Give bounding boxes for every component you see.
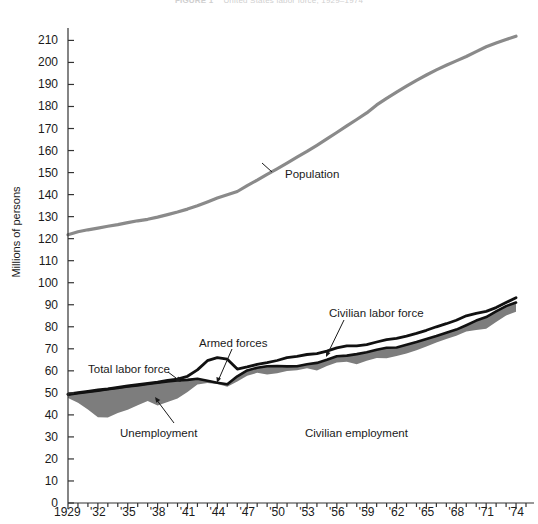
population-line bbox=[68, 36, 516, 235]
annotation-total-labor-force: Total labor force bbox=[88, 363, 170, 375]
chart-figure: FIGURE 1United States labor force, 1929–… bbox=[0, 0, 538, 524]
annotation-civilian-employment: Civilian employment bbox=[305, 427, 408, 439]
annotation-armed-forces: Armed forces bbox=[199, 337, 267, 349]
civilian-labor-force-line bbox=[68, 303, 516, 395]
civilian-employment-area bbox=[68, 312, 516, 503]
annotation-population: Population bbox=[285, 168, 339, 180]
population-leader bbox=[262, 163, 272, 172]
plot-area bbox=[0, 0, 538, 524]
annotation-unemployment: Unemployment bbox=[120, 427, 197, 439]
armed-forces-area bbox=[68, 298, 516, 395]
annotation-civilian-labor-force: Civilian labor force bbox=[329, 307, 424, 319]
total-labor-force-line bbox=[68, 298, 516, 395]
